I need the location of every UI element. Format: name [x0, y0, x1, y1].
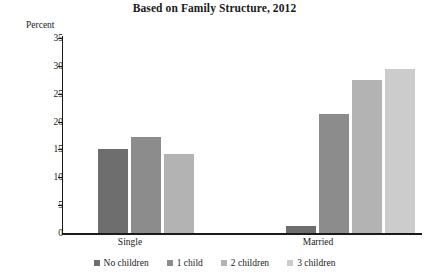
y-axis-label: Percent [26, 20, 55, 30]
bar-married-1-child [319, 114, 349, 233]
chart-title: Based on Family Structure, 2012 [0, 2, 429, 14]
legend-label: No children [104, 258, 149, 268]
x-axis-category-single: Single [90, 237, 170, 247]
y-tick-mark [58, 149, 63, 150]
legend-item-1-child: 1 child [167, 258, 203, 268]
bar-single-1-child [131, 137, 161, 233]
y-tick: 0 [30, 228, 63, 238]
y-tick-mark [58, 38, 63, 39]
legend-swatch-icon [287, 260, 293, 266]
plot-area [62, 38, 422, 233]
legend-swatch-icon [94, 260, 100, 266]
x-axis-category-married: Married [278, 237, 358, 247]
legend-item-2-children: 2 children [221, 258, 269, 268]
y-tick-mark [58, 122, 63, 123]
bar-single-2-children [164, 154, 194, 233]
legend-item-3-children: 3 children [287, 258, 335, 268]
y-tick-label: 0 [43, 228, 63, 238]
legend-label: 3 children [297, 258, 335, 268]
y-tick-mark [58, 177, 63, 178]
bar-single-no-children [98, 149, 128, 233]
legend-item-no-children: No children [94, 258, 149, 268]
y-tick-mark [58, 205, 63, 206]
y-tick-mark [58, 94, 63, 95]
bar-married-no-children [286, 226, 316, 233]
legend-label: 2 children [231, 258, 269, 268]
legend-label: 1 child [177, 258, 203, 268]
y-tick-mark [58, 66, 63, 67]
x-axis-line [62, 233, 422, 235]
bar-married-2-children [352, 80, 382, 233]
legend-swatch-icon [167, 260, 173, 266]
chart-container: Based on Family Structure, 2012 Percent … [0, 0, 429, 276]
legend-swatch-icon [221, 260, 227, 266]
chart-legend: No children1 child2 children3 children [0, 258, 429, 268]
bar-married-3-children [385, 69, 415, 233]
